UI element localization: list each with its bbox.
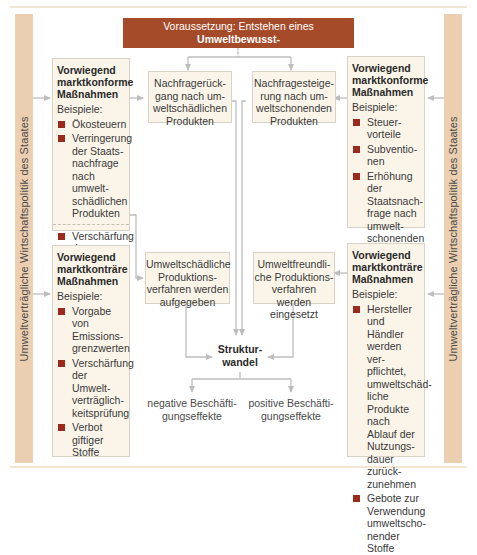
list-item: Subventio­nen bbox=[352, 143, 420, 168]
square-bullet-icon bbox=[58, 308, 65, 315]
square-bullet-icon bbox=[353, 173, 360, 180]
box-title: Vorwiegend marktkonforme Maßnahmen bbox=[352, 62, 420, 98]
demand-increase-box: Nachfragesteige­rung nach um­weltschonen… bbox=[252, 71, 336, 123]
label-line: wandel bbox=[212, 356, 268, 369]
demand-decline-box: Nachfragerück­gang nach um­weltschädlich… bbox=[148, 71, 232, 123]
positive-employment-effects: positive Beschäfti­gungseffekte bbox=[243, 397, 339, 423]
box-text: Umweltschädliche Produktions­verfahren w… bbox=[146, 258, 231, 308]
example-list: Steuer­vorteile Subventio­nen Erhöhung d… bbox=[352, 116, 420, 258]
right-market-contrary-box: Vorwiegend marktkonträre Maßnahmen Beisp… bbox=[347, 243, 425, 457]
dashed-separator bbox=[53, 224, 129, 225]
banner-text-start: Voraussetzung: Entstehen eines bbox=[163, 20, 314, 32]
examples-label: Beispiele: bbox=[57, 103, 125, 116]
title-line: Maßnahmen bbox=[57, 88, 125, 100]
item-text: Vorgabe von Emissions­grenzwerten bbox=[72, 305, 130, 355]
item-text: Verschärfung der Umwelt­verträglich­keit… bbox=[72, 357, 134, 419]
box-title: Vorwiegend marktkonforme Maßnahmen bbox=[57, 64, 125, 100]
square-bullet-icon bbox=[58, 360, 65, 367]
box-text: Nachfragesteige­rung nach um­weltschonen… bbox=[254, 77, 334, 127]
list-item: Gebote zur Verwendung umweltscho­nender … bbox=[352, 492, 420, 555]
list-item: Hersteller und Händler werden ver­pflich… bbox=[352, 303, 420, 491]
title-line: marktkonforme bbox=[57, 76, 125, 88]
left-market-conform-box: Vorwiegend marktkonforme Maßnahmen Beisp… bbox=[52, 58, 130, 231]
square-bullet-icon bbox=[353, 146, 360, 153]
right-market-conform-box: Vorwiegend marktkonforme Maßnahmen Beisp… bbox=[347, 56, 425, 228]
title-line: Vorwiegend bbox=[57, 64, 125, 76]
negative-employment-effects: negative Beschäfti­gungseffekte bbox=[145, 397, 239, 423]
square-bullet-icon bbox=[353, 495, 360, 502]
item-text: Verbot giftiger Stoffe bbox=[72, 421, 104, 458]
list-item: Verschärfung der Umwelt­verträglich­keit… bbox=[57, 357, 125, 420]
left-market-contrary-box: Vorwiegend marktkonträre Maßnahmen Beisp… bbox=[52, 245, 130, 457]
title-line: Maßnahmen bbox=[57, 275, 125, 287]
example-list: Vorgabe von Emissions­grenzwerten Versch… bbox=[57, 305, 125, 459]
item-text: Steuer­vorteile bbox=[367, 116, 401, 141]
box-text: Nachfragerück­gang nach um­weltschädlich… bbox=[153, 77, 227, 127]
example-list: Hersteller und Händler werden ver­pflich… bbox=[352, 303, 420, 555]
friendly-production-box: Umweltfreundli­che Produktions­verfahren… bbox=[253, 252, 335, 304]
title-line: marktkonträre bbox=[57, 263, 125, 275]
square-bullet-icon bbox=[58, 424, 65, 431]
box-title: Vorwiegend marktkonträre Maßnahmen bbox=[57, 251, 125, 287]
list-item: Steuer­vorteile bbox=[352, 116, 420, 141]
title-line: Vorwiegend bbox=[57, 251, 125, 263]
list-item: Verringerung der Staats­nachfrage nach u… bbox=[57, 132, 125, 220]
item-text: Subventio­nen bbox=[367, 143, 417, 168]
title-line: Maßnahmen bbox=[352, 86, 420, 98]
banner-bold-term-1: Umweltbewusst- bbox=[197, 33, 280, 45]
banner-text-end: in breiten Schichten der Bevölkerung bbox=[165, 46, 340, 58]
square-bullet-icon bbox=[58, 121, 65, 128]
title-line: Vorwiegend bbox=[352, 62, 420, 74]
structural-change-label: Struktur- wandel bbox=[212, 343, 268, 369]
title-line: Vorwiegend bbox=[352, 249, 420, 261]
examples-label: Beispiele: bbox=[352, 288, 420, 301]
item-text: Verringerung der Staats­nachfrage nach u… bbox=[72, 132, 132, 219]
title-line: Maßnahmen bbox=[352, 273, 420, 285]
box-title: Vorwiegend marktkonträre Maßnahmen bbox=[352, 249, 420, 285]
square-bullet-icon bbox=[58, 135, 65, 142]
list-item: Vorgabe von Emissions­grenzwerten bbox=[57, 305, 125, 355]
title-line: marktkonforme bbox=[352, 74, 420, 86]
item-text: Ökosteuern bbox=[72, 118, 126, 130]
list-item: Ökosteuern bbox=[57, 118, 125, 131]
list-item: Verbot giftiger Stoffe bbox=[57, 421, 125, 459]
title-line: marktkonträre bbox=[352, 261, 420, 273]
example-list: Ökosteuern Verringerung der Staats­nachf… bbox=[57, 118, 125, 220]
square-bullet-icon bbox=[58, 233, 65, 240]
examples-label: Beispiele: bbox=[352, 101, 420, 114]
square-bullet-icon bbox=[353, 306, 360, 313]
item-text: Gebote zur Verwendung umweltscho­nender … bbox=[367, 492, 426, 554]
examples-label: Beispiele: bbox=[57, 290, 125, 303]
square-bullet-icon bbox=[353, 119, 360, 126]
harmful-production-box: Umweltschädliche Produktions­verfahren w… bbox=[145, 252, 230, 304]
label-line: Struktur- bbox=[212, 343, 268, 356]
banner-bold-term-2: seins bbox=[138, 46, 165, 58]
premise-banner: Voraussetzung: Entstehen eines Umweltbew… bbox=[123, 18, 354, 48]
